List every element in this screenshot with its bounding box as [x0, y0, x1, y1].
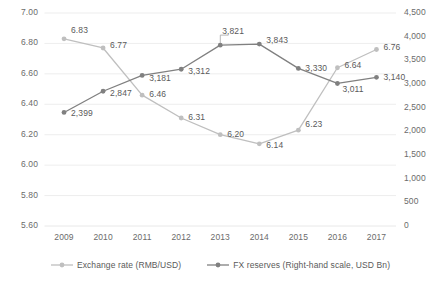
data-point-marker — [335, 81, 340, 86]
chart-legend: Exchange rate (RMB/USD)FX reserves (Righ… — [0, 256, 441, 274]
legend-label: FX reserves (Right-hand scale, USD Bn) — [233, 260, 390, 270]
legend-label: Exchange rate (RMB/USD) — [77, 260, 181, 270]
legend-item-1[interactable]: Exchange rate (RMB/USD) — [51, 260, 181, 270]
data-point-marker — [296, 66, 301, 71]
data-label: 6.77 — [110, 40, 127, 50]
y-left-tick-label: 6.60 — [4, 68, 38, 78]
y-right-tick-label: 500 — [404, 196, 418, 206]
x-tick-label: 2009 — [44, 232, 84, 242]
data-point-marker — [374, 75, 379, 80]
legend-marker-icon — [51, 260, 73, 270]
data-label: 6.64 — [344, 60, 361, 70]
y-right-tick-label: 1,500 — [404, 149, 426, 159]
y-right-tick-label: 4,000 — [404, 31, 426, 41]
data-label: 3,181 — [149, 73, 171, 83]
data-point-marker — [140, 73, 145, 78]
label-leader-line — [220, 35, 228, 43]
y-left-tick-label: 6.20 — [4, 129, 38, 139]
data-point-marker — [101, 46, 106, 51]
y-left-tick-label: 6.00 — [4, 159, 38, 169]
data-point-marker — [218, 132, 223, 137]
x-tick-label: 2014 — [239, 232, 279, 242]
data-label: 3,330 — [305, 63, 327, 73]
y-right-tick-label: 0 — [404, 220, 409, 230]
data-point-marker — [62, 36, 67, 41]
data-label: 6.20 — [227, 129, 244, 139]
x-tick-label: 2011 — [122, 232, 162, 242]
legend-item-2[interactable]: FX reserves (Right-hand scale, USD Bn) — [207, 260, 390, 270]
legend-marker-icon — [207, 260, 229, 270]
data-label: 6.46 — [149, 89, 166, 99]
data-label: 2,847 — [110, 88, 132, 98]
data-point-marker — [179, 67, 184, 72]
x-tick-label: 2017 — [356, 232, 396, 242]
y-left-tick-label: 7.00 — [4, 7, 38, 17]
y-right-tick-label: 2,000 — [404, 125, 426, 135]
y-left-tick-label: 6.40 — [4, 98, 38, 108]
series-line-2 — [64, 44, 376, 112]
data-label: 6.23 — [305, 119, 322, 129]
y-right-tick-label: 3,000 — [404, 78, 426, 88]
y-right-tick-label: 1,000 — [404, 173, 426, 183]
data-point-marker — [335, 65, 340, 70]
chart-container: 7.006.806.606.406.206.005.805.60 4,5004,… — [0, 0, 441, 284]
data-label: 6.14 — [266, 140, 283, 150]
data-label: 6.83 — [71, 25, 88, 35]
data-label: 2,399 — [71, 108, 93, 118]
y-left-tick-label: 6.80 — [4, 37, 38, 47]
y-right-tick-label: 4,500 — [404, 7, 426, 17]
data-point-marker — [62, 110, 67, 115]
data-point-marker — [101, 89, 106, 94]
data-label: 3,011 — [342, 84, 363, 94]
x-tick-label: 2012 — [161, 232, 201, 242]
data-point-marker — [374, 47, 379, 52]
leader-lines — [220, 35, 228, 43]
data-point-marker — [296, 128, 301, 133]
data-label: 3,312 — [188, 66, 210, 76]
y-right-tick-label: 2,500 — [404, 102, 426, 112]
data-point-marker — [257, 141, 262, 146]
data-label: 6.76 — [383, 42, 400, 52]
data-label: 3,843 — [266, 35, 288, 45]
data-point-marker — [140, 93, 145, 98]
data-point-marker — [179, 116, 184, 121]
x-tick-label: 2015 — [278, 232, 318, 242]
y-right-tick-label: 3,500 — [404, 54, 426, 64]
data-label: 3,821 — [222, 26, 244, 36]
x-tick-label: 2010 — [83, 232, 123, 242]
x-tick-label: 2013 — [200, 232, 240, 242]
data-point-marker — [257, 42, 262, 47]
data-label: 6.31 — [188, 112, 205, 122]
y-left-tick-label: 5.80 — [4, 190, 38, 200]
data-label: 3,140 — [383, 72, 405, 82]
x-tick-label: 2016 — [317, 232, 357, 242]
data-point-marker — [218, 43, 223, 48]
y-left-tick-label: 5.60 — [4, 220, 38, 230]
